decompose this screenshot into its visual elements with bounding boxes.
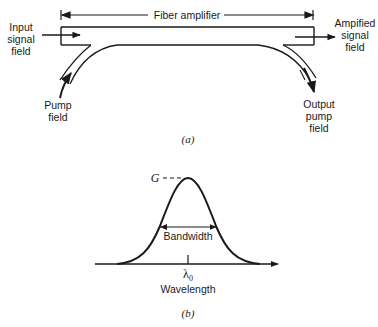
amplified-signal-line-3: field (332, 41, 378, 53)
caption-b: (b) (176, 307, 200, 319)
input-signal-line-3: field (2, 45, 40, 57)
amplified-signal-line-1: Ampified (332, 17, 378, 29)
gain-spectrum-plot (95, 178, 278, 264)
fiber-amplifier-label: Fiber amplifier (150, 9, 224, 21)
output-pump-line-1: Output (299, 98, 339, 110)
bandwidth-label: Bandwidth (160, 230, 216, 242)
output-pump-line-3: field (299, 122, 339, 134)
input-signal-line-2: signal (2, 33, 40, 45)
gain-curve (117, 178, 260, 264)
pump-field-line-1: Pump (40, 99, 76, 111)
output-pump-label: Output pump field (299, 98, 339, 134)
wavelength-axis-label: Wavelength (158, 283, 218, 295)
caption-a: (a) (176, 133, 200, 145)
pump-field-label: Pump field (40, 99, 76, 123)
amplified-signal-label: Ampified signal field (332, 17, 378, 53)
input-signal-line-1: Input (2, 21, 40, 33)
amplified-signal-line-2: signal (332, 29, 378, 41)
output-pump-line-2: pump (299, 110, 339, 122)
gain-label: G (148, 172, 162, 184)
input-signal-label: Input signal field (2, 21, 40, 57)
pump-field-line-2: field (40, 111, 76, 123)
fiber-body (61, 27, 314, 45)
